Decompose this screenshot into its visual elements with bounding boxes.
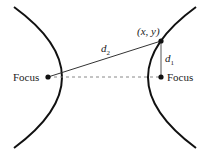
right-focus-label: Focus	[167, 71, 193, 83]
left-focus-label: Focus	[13, 71, 39, 83]
point-xy	[158, 38, 163, 43]
left-focus-point	[45, 74, 50, 79]
right-focus-point	[158, 74, 163, 79]
d1-label: d1	[165, 52, 175, 67]
point-label: (x, y)	[137, 25, 160, 38]
d2-label: d2	[101, 42, 111, 57]
hyperbola-diagram: Focus Focus (x, y) d2 d1	[0, 0, 203, 160]
